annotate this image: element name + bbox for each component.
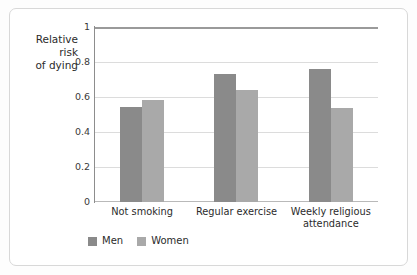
plot-area: [95, 27, 378, 202]
x-axis-category-labels: Not smokingRegular exerciseWeekly religi…: [95, 206, 378, 240]
bar-group: [189, 27, 283, 202]
x-category-label: Not smoking: [95, 206, 189, 218]
bar-men: [120, 107, 142, 202]
legend-swatch-icon: [88, 237, 97, 246]
y-tick-0.2: 0.2: [64, 162, 90, 172]
y-tick-0: 0: [64, 197, 90, 207]
legend-swatch-icon: [137, 237, 146, 246]
bar-women: [142, 100, 164, 202]
legend-item-women[interactable]: Women: [137, 236, 189, 246]
chart-figure: Relative risk of dying 00.20.40.60.81 No…: [0, 0, 417, 275]
y-tick-1: 1: [64, 22, 90, 32]
legend-label: Women: [151, 236, 189, 246]
legend-item-men[interactable]: Men: [88, 236, 123, 246]
y-axis-tick-labels: 00.20.40.60.81: [60, 27, 90, 202]
bar-group: [284, 27, 378, 202]
bar-men: [214, 74, 236, 202]
y-tick-0.6: 0.6: [64, 92, 90, 102]
y-tick-0.4: 0.4: [64, 127, 90, 137]
bar-men: [309, 69, 331, 202]
chart-legend: MenWomen: [88, 236, 189, 246]
bar-women: [331, 108, 353, 202]
legend-label: Men: [102, 236, 123, 246]
bar-group: [95, 27, 189, 202]
x-category-label: Weekly religious attendance: [284, 206, 378, 230]
y-tick-0.8: 0.8: [64, 57, 90, 67]
bar-women: [236, 90, 258, 202]
x-category-label: Regular exercise: [189, 206, 283, 218]
